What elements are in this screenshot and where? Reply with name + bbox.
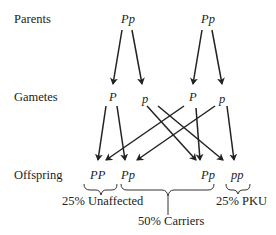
gamete-3: P: [189, 90, 197, 105]
brace-pku: [226, 184, 250, 194]
row-label-parents: Parents: [14, 12, 51, 27]
row-label-offspring: Offspring: [14, 168, 62, 183]
parent-genotype-1: Pp: [121, 12, 135, 27]
arrow-parent2-to-P: [193, 30, 202, 84]
gamete-1: P: [109, 90, 117, 105]
row-label-gametes: Gametes: [14, 90, 58, 105]
outcome-unaffected: 25% Unaffected: [62, 194, 143, 209]
gamete-2: p: [142, 92, 148, 107]
gamete-4: p: [219, 92, 225, 107]
arrow-parent2-to-p: [212, 30, 222, 84]
offspring-genotype-3: Pp: [201, 168, 215, 183]
offspring-genotype-1: PP: [90, 168, 105, 183]
arrow-parent1-to-p: [132, 30, 142, 84]
outcome-carriers: 50% Carriers: [138, 214, 204, 229]
parent-genotype-2: Pp: [201, 12, 215, 27]
offspring-genotype-4: pp: [231, 168, 244, 183]
outcome-pku: 25% PKU: [216, 194, 267, 209]
arrow-parent1-to-P: [113, 30, 122, 84]
offspring-genotype-2: Pp: [121, 168, 135, 183]
